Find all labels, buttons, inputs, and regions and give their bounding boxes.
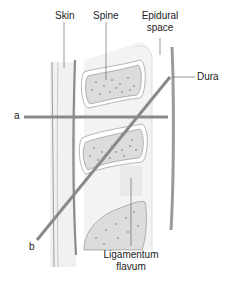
label-spine: Spine <box>93 10 119 22</box>
skin-layer <box>50 60 76 267</box>
label-skin: Skin <box>55 10 74 22</box>
label-epidural-space: Epidural space <box>140 10 180 34</box>
dura-mater <box>171 47 173 230</box>
label-ligamentum-flavum: Ligamentum flavum <box>101 249 161 273</box>
lumbar-puncture-diagram <box>0 0 229 281</box>
label-dura: Dura <box>197 71 219 83</box>
label-needle-a: a <box>14 110 20 122</box>
label-needle-b: b <box>29 241 35 253</box>
